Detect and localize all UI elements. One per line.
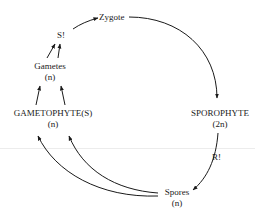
gametophyte-label: GAMETOPHYTE(S) <box>11 108 95 119</box>
arrow-gametophyte-to-gametes-1 <box>36 86 40 105</box>
gametes-node: Gametes (n) <box>33 61 67 83</box>
gametes-label: Gametes <box>33 61 67 72</box>
sporophyte-ploidy: (2n) <box>187 119 253 130</box>
arrow-gametophyte-to-gametes-2 <box>61 86 65 105</box>
spores-ploidy: (n) <box>161 198 193 209</box>
sporophyte-node: SPOROPHYTE (2n) <box>187 108 253 130</box>
reduction-label: R! <box>212 152 221 163</box>
gametes-ploidy: (n) <box>33 72 67 83</box>
gametophyte-ploidy: (n) <box>11 119 95 130</box>
arrow-spores-to-gametophyte-1 <box>38 136 158 196</box>
life-cycle-arrows <box>0 0 255 212</box>
spores-node: Spores (n) <box>161 187 193 209</box>
arrow-zygote-to-sporophyte <box>129 17 217 98</box>
arrow-syngamy-to-zygote <box>73 18 98 29</box>
spores-label: Spores <box>161 187 193 198</box>
syngamy-label: S! <box>57 30 65 41</box>
sporophyte-label: SPOROPHYTE <box>187 108 253 119</box>
arrow-gametes-to-syngamy-1 <box>47 44 55 58</box>
arrow-spores-to-gametophyte-2 <box>69 136 158 193</box>
arrow-gametes-to-syngamy-2 <box>58 44 60 58</box>
zygote-label: Zygote <box>99 12 125 23</box>
gametophyte-node: GAMETOPHYTE(S) (n) <box>11 108 95 130</box>
